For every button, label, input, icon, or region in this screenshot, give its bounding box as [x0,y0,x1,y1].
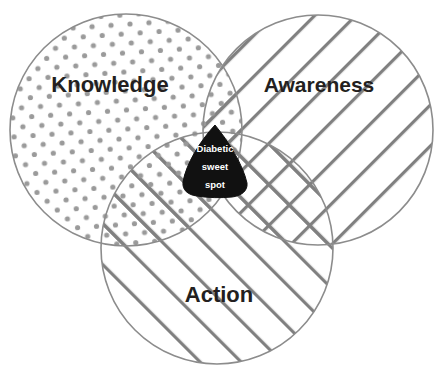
venn-diagram-svg: Knowledge Awareness Action Diabetic swee… [0,0,441,377]
label-knowledge: Knowledge [51,72,168,97]
sweet-spot-line-3: spot [205,179,226,190]
venn-diagram-stage: Knowledge Awareness Action Diabetic swee… [0,0,441,377]
sweet-spot-line-2: sweet [202,161,229,172]
label-awareness: Awareness [264,73,375,96]
sweet-spot-line-1: Diabetic [197,143,234,154]
label-action: Action [185,282,253,307]
